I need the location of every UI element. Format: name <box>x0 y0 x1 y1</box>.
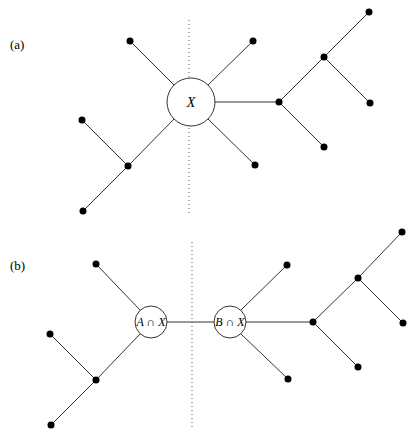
edge <box>208 119 255 165</box>
edge <box>241 265 287 310</box>
graph-node <box>79 117 86 124</box>
edge <box>324 57 370 103</box>
nodes-a <box>79 9 374 215</box>
edge <box>96 334 140 380</box>
bag-label-b-intersect-x: B ∩ X <box>215 315 245 329</box>
graph-node <box>48 422 55 429</box>
graph-node <box>125 163 132 170</box>
edge <box>51 380 96 425</box>
panel-a: (a) X <box>10 9 374 215</box>
graph-node <box>321 144 328 151</box>
bag-label-x: X <box>186 95 196 110</box>
graph-node <box>250 38 257 45</box>
bag-label-a-intersect-x: A ∩ X <box>135 315 166 329</box>
edge <box>130 41 174 85</box>
edge <box>279 57 324 102</box>
graph-node <box>355 275 362 282</box>
graph-node <box>127 38 134 45</box>
graph-node <box>310 319 317 326</box>
graph-node <box>80 208 87 215</box>
graph-node <box>366 9 373 16</box>
edge <box>96 264 140 310</box>
graph-node <box>47 331 54 338</box>
edge <box>82 120 128 166</box>
edge <box>313 322 358 367</box>
edge <box>83 166 128 211</box>
edges-a <box>82 12 370 211</box>
tree-decomposition-diagram: (a) X <box>0 0 420 442</box>
graph-node <box>355 364 362 371</box>
edge <box>324 12 369 57</box>
graph-node <box>399 229 406 236</box>
panel-b-label: (b) <box>10 258 25 273</box>
graph-node <box>400 320 407 327</box>
graph-node <box>93 377 100 384</box>
graph-node <box>93 261 100 268</box>
graph-node <box>321 54 328 61</box>
graph-node <box>252 162 259 169</box>
edge <box>50 334 96 380</box>
edge <box>208 41 253 85</box>
edge <box>128 119 174 166</box>
edge <box>241 334 288 379</box>
panel-b: (b) A ∩ X B ∩ X <box>10 229 407 431</box>
edge <box>279 102 324 147</box>
edge <box>358 232 402 278</box>
graph-node <box>367 100 374 107</box>
graph-node <box>276 99 283 106</box>
edge <box>358 278 403 323</box>
panel-a-label: (a) <box>10 37 24 52</box>
graph-node <box>284 262 291 269</box>
edge <box>313 278 358 322</box>
graph-node <box>285 376 292 383</box>
